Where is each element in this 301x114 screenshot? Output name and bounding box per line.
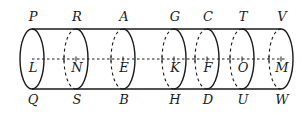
point-label-t: T xyxy=(239,10,248,23)
point-label-n: N xyxy=(71,61,82,74)
point-label-v: V xyxy=(277,10,286,23)
point-label-d: D xyxy=(203,93,213,106)
point-label-k: K xyxy=(170,61,180,74)
point-label-h: H xyxy=(169,93,180,106)
point-label-f: F xyxy=(203,61,212,74)
point-label-g: G xyxy=(170,10,180,23)
point-label-s: S xyxy=(73,93,82,106)
point-label-q: Q xyxy=(28,93,39,106)
point-label-p: P xyxy=(29,10,38,23)
point-label-w: W xyxy=(275,93,288,106)
point-label-c: C xyxy=(203,10,213,23)
point-label-r: R xyxy=(72,10,82,23)
cylinder-diagram: PRAGCTVLNEKFOMQSBHDUW xyxy=(0,0,301,114)
point-label-e: E xyxy=(119,61,129,74)
point-label-a: A xyxy=(119,10,128,23)
point-label-o: O xyxy=(238,61,249,74)
point-label-u: U xyxy=(238,93,249,106)
cylinder-drawing xyxy=(0,0,301,114)
point-label-b: B xyxy=(119,93,129,106)
point-label-m: M xyxy=(275,61,288,74)
point-label-l: L xyxy=(29,61,38,74)
